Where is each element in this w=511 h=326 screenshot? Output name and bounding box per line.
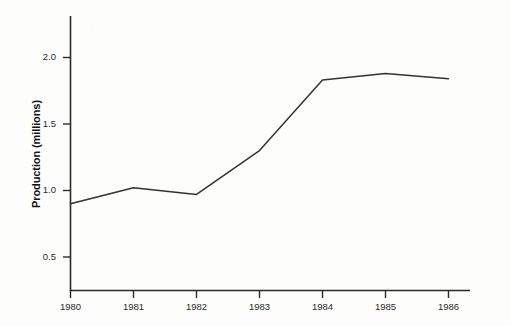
y-tick-label-1.0: 1.0 bbox=[22, 184, 56, 195]
chart-plot-area bbox=[0, 0, 511, 326]
x-tick-label-1980: 1980 bbox=[51, 301, 91, 312]
x-tick-label-1983: 1983 bbox=[240, 301, 280, 312]
y-tick-label-2.0: 2.0 bbox=[22, 51, 56, 62]
x-tick-label-1985: 1985 bbox=[366, 301, 406, 312]
y-tick-label-1.5: 1.5 bbox=[22, 118, 56, 129]
production-data-line bbox=[71, 73, 449, 203]
x-tick-label-1982: 1982 bbox=[177, 301, 217, 312]
y-tick-label-0.5: 0.5 bbox=[22, 251, 56, 262]
x-tick-label-1986: 1986 bbox=[429, 301, 469, 312]
production-line-chart: Production (millions) 2.0 1.5 1.0 0.5 19… bbox=[0, 0, 511, 326]
x-tick-label-1984: 1984 bbox=[303, 301, 343, 312]
x-tick-label-1981: 1981 bbox=[114, 301, 154, 312]
